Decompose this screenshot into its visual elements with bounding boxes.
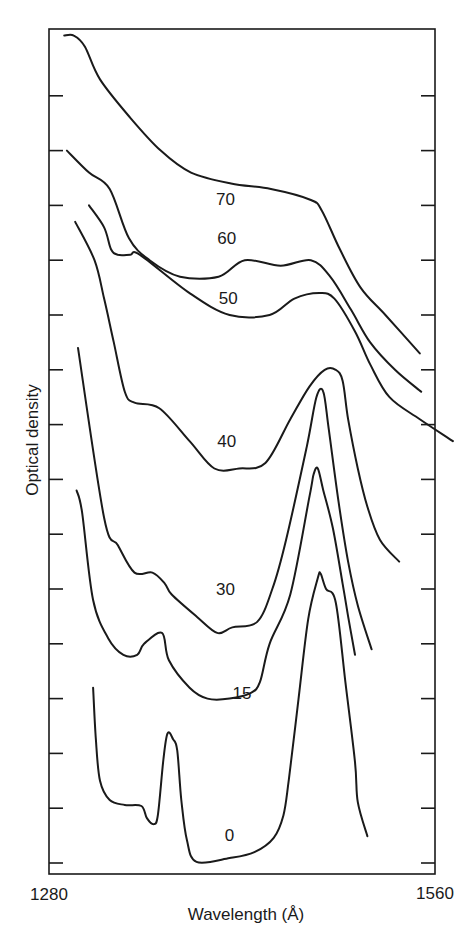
spectra-curves	[64, 35, 453, 863]
curve-label-0: 0	[225, 826, 234, 845]
curve-label-50: 50	[219, 289, 238, 308]
y-axis-title: Optical density	[23, 384, 42, 496]
curve-label-40: 40	[217, 432, 236, 451]
curve-label-60: 60	[217, 229, 236, 248]
curve-40	[75, 222, 399, 562]
left-axis-ticks	[49, 96, 63, 863]
right-axis-ticks	[421, 96, 435, 863]
curve-label-15: 15	[233, 684, 252, 703]
x-max-label: 1560	[416, 884, 454, 903]
curve-70	[64, 35, 420, 354]
curve-30	[78, 348, 372, 649]
optical-density-chart: 7060504030150 1280 1560 Wavelength (Å) O…	[0, 0, 476, 946]
x-axis-title: Wavelength (Å)	[188, 905, 305, 924]
curve-labels: 7060504030150	[216, 190, 251, 845]
curve-label-70: 70	[216, 190, 235, 209]
curve-0	[93, 572, 367, 863]
curve-60	[67, 151, 421, 392]
plot-frame	[49, 29, 435, 874]
curve-50	[89, 205, 453, 441]
x-min-label: 1280	[30, 885, 68, 904]
curve-label-30: 30	[216, 580, 235, 599]
